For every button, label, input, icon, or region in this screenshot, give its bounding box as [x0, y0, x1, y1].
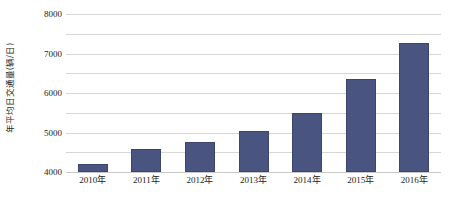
gridline: 5000	[66, 73, 441, 74]
bar	[78, 164, 108, 172]
x-axis-tick-label: 2013年	[240, 176, 267, 185]
y-axis-title: 年平均日交通量(辆/日)	[0, 0, 18, 175]
x-axis-tick-label: 2014年	[294, 176, 321, 185]
bar	[292, 113, 322, 172]
x-axis-tick-label: 2010年	[79, 176, 106, 185]
bar	[239, 131, 269, 172]
y-axis-tick-label: 7000	[44, 49, 62, 58]
x-axis-tick-label: 2016年	[401, 176, 428, 185]
y-axis-tick-label: 6000	[44, 89, 62, 98]
gridline: 3000	[66, 113, 441, 114]
bar-chart-figure: 年平均日交通量(辆/日) 010002000300040005000600070…	[0, 0, 451, 199]
gridline: 4000	[66, 93, 441, 94]
plot-area: 010002000300040005000600070008000	[66, 14, 441, 172]
y-axis-tick-label: 4000	[44, 168, 62, 177]
bar	[346, 79, 376, 172]
y-axis-tick-label: 5000	[44, 128, 62, 137]
bar	[131, 149, 161, 172]
bar	[185, 142, 215, 172]
x-axis-tick-label: 2015年	[347, 176, 374, 185]
bar	[399, 43, 429, 172]
y-axis-tick-label: 8000	[44, 10, 62, 19]
gridline: 7000	[66, 34, 441, 35]
x-axis-tick-label: 2012年	[186, 176, 213, 185]
gridline: 0	[66, 172, 441, 173]
gridline: 8000	[66, 14, 441, 15]
y-axis-title-label: 年平均日交通量(辆/日)	[3, 42, 15, 133]
x-axis-tick-label: 2011年	[133, 176, 160, 185]
gridline: 6000	[66, 54, 441, 55]
